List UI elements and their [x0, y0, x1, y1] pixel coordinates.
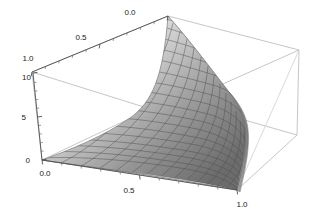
x-axis-tick-1 [237, 190, 238, 194]
y-axis-tick-label-0: 0.0 [124, 8, 136, 17]
box-edge-vertical-right [297, 50, 299, 135]
z-axis-tick-10 [33, 72, 38, 73]
y-axis-tick-label-1: 1.0 [22, 54, 34, 63]
y-axis-tick-label-05: 0.5 [75, 33, 87, 42]
z-axis-tick-label-0: 0 [26, 156, 31, 165]
z-axis-tick-label-5: 5 [22, 113, 27, 122]
surface-body [42, 16, 246, 190]
x-axis-tick-0 [42, 160, 43, 164]
plot-3d-surface: 0 5 10 0.0 0.5 1.0 [0, 0, 310, 221]
z-axis: 0 5 10 [22, 72, 47, 165]
x-axis-tick-label-05: 0.5 [123, 186, 135, 195]
y-axis-tick-1 [31, 72, 32, 76]
x-axis-tick-05 [140, 175, 141, 179]
surface-plot-canvas: 0 5 10 0.0 0.5 1.0 [0, 0, 310, 221]
z-axis-tick-5 [38, 116, 43, 117]
x-axis-tick-label-1: 1.0 [236, 200, 248, 209]
x-axis-tick-label-0: 0.0 [39, 169, 51, 178]
y-axis: 0.0 0.5 1.0 [22, 8, 168, 76]
z-axis-tick-label-10: 10 [22, 73, 31, 82]
surface-mesh-group [42, 16, 254, 196]
